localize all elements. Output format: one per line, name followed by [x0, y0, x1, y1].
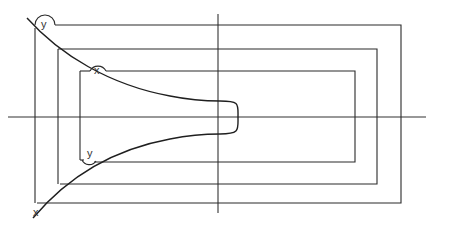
diagram-canvas: y x y x	[0, 0, 451, 230]
label-top-outer-angle: y	[41, 18, 47, 30]
label-bottom-outer-point: x	[33, 206, 39, 218]
angle-arc-bottom-inner	[82, 160, 96, 165]
upper-curve	[27, 18, 220, 101]
label-top-inner-angle: x	[94, 64, 100, 76]
lower-curve	[33, 134, 220, 218]
label-bottom-inner-angle: y	[87, 147, 93, 159]
